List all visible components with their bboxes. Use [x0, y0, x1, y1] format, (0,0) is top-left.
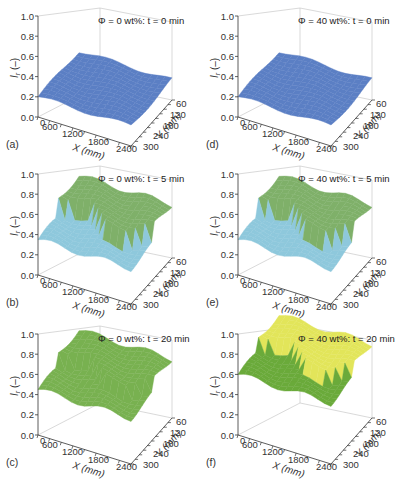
panel-label: (d) [206, 138, 219, 150]
svg-text:0.0: 0.0 [21, 112, 34, 123]
surface [38, 176, 172, 272]
svg-text:0.4: 0.4 [221, 71, 234, 82]
panel-annotation: Φ = 0 wt%: t = 20 min [98, 333, 190, 344]
y-ticks: 60120180240300 [131, 416, 187, 470]
svg-text:0.6: 0.6 [21, 369, 34, 380]
svg-text:0.2: 0.2 [221, 409, 234, 420]
svg-text:1200: 1200 [62, 446, 83, 457]
surface-plot: 0.00.20.40.60.81.0 0600120018002400 6012… [0, 318, 200, 478]
surface-panel-e: 0.00.20.40.60.81.0 0600120018002400 6012… [200, 158, 400, 318]
svg-text:60: 60 [376, 256, 387, 267]
svg-text:0.4: 0.4 [21, 71, 34, 82]
svg-text:0.2: 0.2 [221, 91, 234, 102]
svg-text:60: 60 [176, 256, 187, 267]
svg-text:60: 60 [176, 98, 187, 109]
svg-text:0.2: 0.2 [21, 249, 34, 260]
svg-text:600: 600 [42, 439, 58, 450]
svg-text:2400: 2400 [316, 143, 337, 154]
surface-plot: 0.00.20.40.60.81.0 0600120018002400 6012… [200, 0, 400, 160]
svg-text:300: 300 [143, 299, 159, 310]
z-ticks: 0.00.20.40.60.81.0 [221, 169, 238, 281]
z-axis-label: Ir (–) [209, 376, 221, 396]
svg-text:2400: 2400 [116, 301, 137, 312]
svg-text:1200: 1200 [262, 286, 283, 297]
svg-text:0.4: 0.4 [21, 229, 34, 240]
panel-annotation: Φ = 40 wt%: t = 0 min [298, 15, 390, 26]
surface-plot: 0.00.20.40.60.81.0 0600120018002400 6012… [200, 158, 400, 318]
surface-plot: 0.00.20.40.60.81.0 0600120018002400 6012… [0, 0, 200, 160]
surface [238, 53, 372, 125]
svg-text:300: 300 [343, 299, 359, 310]
panel-label: (b) [6, 296, 19, 308]
svg-text:600: 600 [42, 279, 58, 290]
svg-text:300: 300 [143, 459, 159, 470]
svg-text:60: 60 [376, 416, 387, 427]
svg-text:300: 300 [343, 141, 359, 152]
svg-text:1.0: 1.0 [21, 169, 34, 180]
svg-text:1.0: 1.0 [21, 11, 34, 22]
panel-label: (e) [206, 296, 219, 308]
surface-panel-a: 0.00.20.40.60.81.0 0600120018002400 6012… [0, 0, 200, 160]
svg-text:0.2: 0.2 [221, 249, 234, 260]
svg-text:0.0: 0.0 [21, 430, 34, 441]
z-axis-label: Ir (–) [9, 58, 21, 78]
svg-text:0.0: 0.0 [221, 430, 234, 441]
svg-text:0.0: 0.0 [221, 112, 234, 123]
z-axis-label: Ir (–) [9, 376, 21, 396]
panel-annotation: Φ = 40 wt%: t = 5 min [298, 173, 390, 184]
svg-text:1.0: 1.0 [221, 169, 234, 180]
svg-text:0.8: 0.8 [21, 349, 34, 360]
svg-text:600: 600 [242, 279, 258, 290]
svg-text:600: 600 [242, 439, 258, 450]
svg-text:1800: 1800 [88, 136, 109, 147]
svg-text:0.8: 0.8 [21, 189, 34, 200]
svg-text:0.6: 0.6 [21, 51, 34, 62]
svg-text:0.8: 0.8 [221, 349, 234, 360]
svg-text:0.4: 0.4 [221, 229, 234, 240]
z-ticks: 0.00.20.40.60.81.0 [21, 169, 38, 281]
y-ticks: 60120180240300 [331, 416, 387, 470]
svg-text:1800: 1800 [288, 454, 309, 465]
z-ticks: 0.00.20.40.60.81.0 [221, 11, 238, 123]
surface-plot: 0.00.20.40.60.81.0 0600120018002400 6012… [0, 158, 200, 318]
surface-panel-d: 0.00.20.40.60.81.0 0600120018002400 6012… [200, 0, 400, 160]
svg-text:0.6: 0.6 [221, 209, 234, 220]
panel-annotation: Φ = 0 wt%: t = 0 min [98, 15, 184, 26]
svg-text:600: 600 [242, 121, 258, 132]
svg-text:1200: 1200 [262, 128, 283, 139]
svg-text:60: 60 [176, 416, 187, 427]
svg-text:0.0: 0.0 [21, 270, 34, 281]
surface [38, 53, 172, 125]
svg-text:2400: 2400 [116, 461, 137, 472]
svg-text:0.4: 0.4 [21, 389, 34, 400]
y-ticks: 60120180240300 [131, 256, 187, 310]
svg-text:1200: 1200 [62, 128, 83, 139]
surface [38, 331, 172, 422]
svg-text:0.8: 0.8 [21, 31, 34, 42]
z-ticks: 0.00.20.40.60.81.0 [21, 11, 38, 123]
z-ticks: 0.00.20.40.60.81.0 [221, 329, 238, 441]
panel-label: (a) [6, 138, 19, 150]
panel-annotation: Φ = 40 wt%: t = 20 min [298, 333, 395, 344]
svg-text:300: 300 [143, 141, 159, 152]
y-ticks: 60120180240300 [331, 256, 387, 310]
panel-annotation: Φ = 0 wt%: t = 5 min [98, 173, 184, 184]
svg-text:1.0: 1.0 [221, 11, 234, 22]
svg-text:1800: 1800 [288, 136, 309, 147]
surface [238, 176, 372, 272]
svg-text:0.8: 0.8 [221, 189, 234, 200]
svg-text:60: 60 [376, 98, 387, 109]
svg-text:0.4: 0.4 [221, 389, 234, 400]
svg-text:1.0: 1.0 [21, 329, 34, 340]
surface-panel-f: 0.00.20.40.60.81.0 0600120018002400 6012… [200, 318, 400, 478]
z-axis-label: Ir (–) [9, 216, 21, 236]
svg-text:1800: 1800 [288, 294, 309, 305]
svg-text:1.0: 1.0 [221, 329, 234, 340]
svg-text:600: 600 [42, 121, 58, 132]
panel-label: (c) [6, 456, 18, 468]
svg-text:0.2: 0.2 [21, 409, 34, 420]
svg-text:1800: 1800 [88, 294, 109, 305]
svg-text:1200: 1200 [62, 286, 83, 297]
surface-panel-b: 0.00.20.40.60.81.0 0600120018002400 6012… [0, 158, 200, 318]
svg-text:2400: 2400 [316, 461, 337, 472]
